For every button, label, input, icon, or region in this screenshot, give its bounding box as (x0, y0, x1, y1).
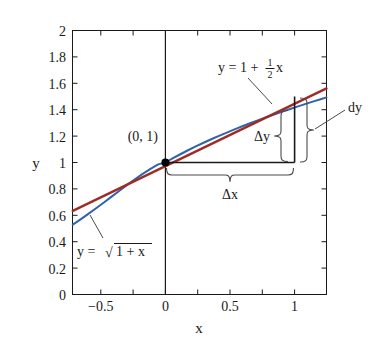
x-axis-title: x (195, 320, 203, 336)
tangency-point-marker (161, 159, 169, 167)
y-tick-label-1.4: 1.4 (49, 103, 67, 118)
y-axis-ticks-right (322, 57, 327, 295)
y-tick-label-1.6: 1.6 (49, 77, 67, 92)
differential-approximation-chart: 2 1.8 1.6 1.4 1.2 1 0.8 0.6 0.4 0.2 0 −0… (0, 0, 379, 341)
dy-brace (300, 98, 314, 162)
figure-container: 2 1.8 1.6 1.4 1.2 1 0.8 0.6 0.4 0.2 0 −0… (0, 0, 379, 341)
sqrt-equation-prefix: y = (77, 244, 96, 259)
radicand: 1 + x (116, 244, 145, 259)
y-tick-label-1: 1 (59, 156, 66, 171)
y-axis-title: y (32, 155, 40, 171)
tangent-equation-prefix: y = 1 + (218, 60, 258, 75)
sqrt-equation-label: y = √ 1 + x (77, 215, 152, 260)
tangent-equation-suffix: x (276, 60, 283, 75)
x-axis-ticks-top (101, 31, 295, 36)
x-tick-label-neg0.5: −0.5 (88, 299, 113, 314)
delta-x-label: Δx (222, 187, 238, 202)
tangent-equation-numerator: 1 (268, 57, 273, 68)
y-tick-label-2: 2 (59, 24, 66, 39)
y-tick-label-0: 0 (59, 288, 66, 303)
tangent-equation-label: y = 1 + 1 2 x (218, 57, 283, 104)
y-tick-label-1.8: 1.8 (49, 50, 67, 65)
delta-y-label: Δy (254, 129, 270, 144)
tangent-line (73, 88, 327, 210)
point-label: (0, 1) (128, 129, 159, 145)
x-tick-label-0.5: 0.5 (221, 299, 239, 314)
y-tick-label-1.2: 1.2 (49, 130, 67, 145)
delta-x-brace (167, 168, 294, 182)
sqrt-label-leader-line (90, 215, 103, 238)
y-tick-label-0.6: 0.6 (49, 209, 67, 224)
radical-sign: √ (105, 245, 113, 260)
dy-label: dy (348, 100, 362, 115)
x-tick-label-1: 1 (291, 299, 298, 314)
sqrt-curve (73, 97, 327, 224)
y-tick-label-0.8: 0.8 (49, 182, 67, 197)
x-tick-label-0: 0 (162, 299, 169, 314)
y-tick-label-0.4: 0.4 (49, 235, 67, 250)
delta-y-brace (275, 111, 289, 162)
y-tick-label-0.2: 0.2 (49, 262, 67, 277)
x-axis-ticks (101, 290, 327, 295)
tangent-equation-denominator: 2 (268, 69, 273, 80)
dy-label-leader-line (315, 110, 345, 129)
tangent-label-leader-line (248, 78, 272, 104)
